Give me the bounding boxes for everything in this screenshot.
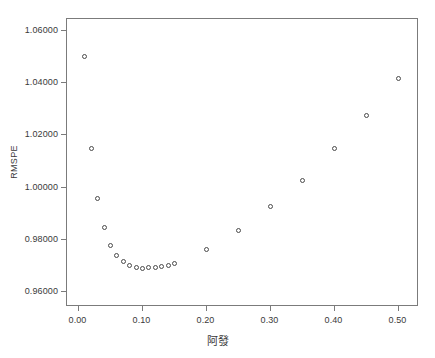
x-axis-ticks: 0.000.100.200.300.400.50 [0, 0, 435, 358]
x-tick-label: 0.00 [69, 315, 87, 325]
x-tick-mark [334, 306, 335, 311]
x-tick-label: 0.30 [261, 315, 279, 325]
x-tick-mark [206, 306, 207, 311]
x-tick-mark [142, 306, 143, 311]
x-tick-mark [398, 306, 399, 311]
x-tick-label: 0.20 [197, 315, 215, 325]
x-axis-title: 阿發 [0, 332, 435, 348]
scatter-chart: RMSPE 0.960000.980001.000001.020001.0400… [0, 0, 435, 358]
x-tick-mark [78, 306, 79, 311]
x-tick-label: 0.10 [133, 315, 151, 325]
x-tick-mark [270, 306, 271, 311]
x-tick-label: 0.50 [389, 315, 407, 325]
x-tick-label: 0.40 [325, 315, 343, 325]
